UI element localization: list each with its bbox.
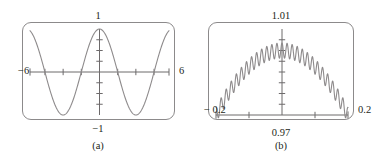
panel-b-ymin-label: 0.97 [272, 128, 290, 139]
panel-b-ymax-label: 1.01 [272, 11, 290, 22]
panel-a-ymin-label: −1 [92, 124, 103, 135]
panel-b-xmin-label: − 0.2 [204, 105, 226, 116]
calculator-screen-a [22, 22, 175, 120]
calculator-screen-b [208, 22, 354, 120]
panel-a-caption: (a) [92, 140, 104, 151]
panel-b-caption: (b) [275, 140, 287, 151]
plot-b [209, 23, 355, 121]
panel-a-ymax-label: 1 [95, 11, 100, 22]
panel-a-xmax-label: 6 [179, 66, 184, 77]
plot-a [23, 23, 176, 121]
panel-b-xmax-label: 0.2 [358, 105, 371, 116]
panel-a-xmin-label: −6 [18, 66, 29, 77]
figure-container: 1 −1 −6 6 (a) 1.01 0.97 − 0.2 0.2 (b) [0, 0, 377, 158]
